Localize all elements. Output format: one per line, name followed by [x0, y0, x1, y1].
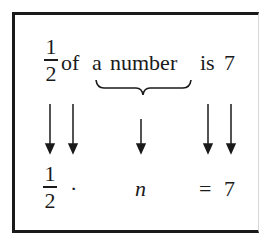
equals-sign: = [199, 176, 211, 202]
arrow-down-icon [46, 104, 235, 153]
equation-fraction: 1 2 [43, 163, 57, 212]
variable-n: n [135, 176, 146, 202]
equation-denominator: 2 [45, 190, 56, 212]
multiply-dot: · [70, 176, 77, 202]
arrows-and-brace [0, 0, 265, 244]
equation-numerator: 1 [45, 163, 56, 185]
underbrace-icon [96, 80, 191, 95]
result-seven: 7 [224, 176, 235, 202]
